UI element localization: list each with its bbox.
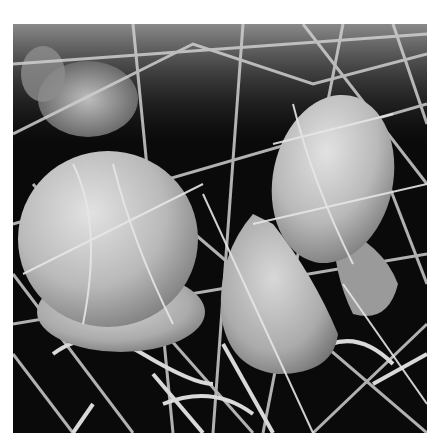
red-blood-cell-left <box>18 151 198 327</box>
micrograph-image <box>13 24 427 433</box>
micrograph-illustration <box>13 24 427 433</box>
